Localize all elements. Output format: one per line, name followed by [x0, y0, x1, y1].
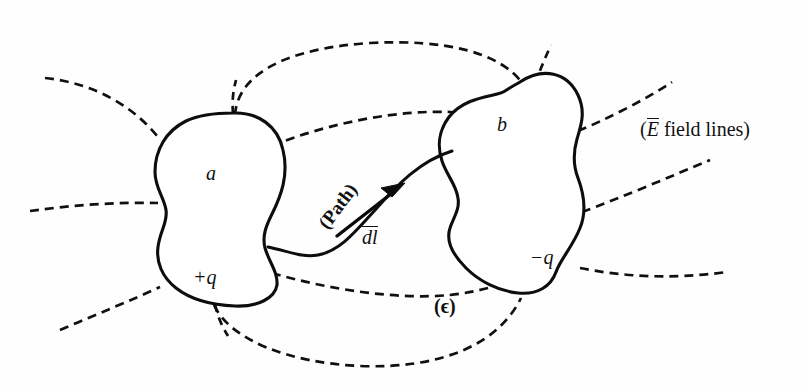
field-line-left-middle — [30, 203, 158, 211]
field-line-stub-bottom-left — [215, 304, 228, 336]
field-line-right-lower — [580, 268, 727, 276]
conductor-b-outline — [439, 73, 584, 293]
permittivity-label: (ϵ) — [434, 296, 456, 316]
field-line-left-upper — [45, 78, 158, 137]
conductor-a-outline — [155, 113, 285, 306]
field-lines-caption: (E field lines) — [640, 118, 750, 140]
conductor-b-charge-label: −q — [530, 247, 554, 267]
field-line-right-middle — [582, 160, 710, 212]
field-lines-caption-close-paren: ) — [743, 118, 750, 140]
field-line-bottom-arc-outer — [214, 298, 521, 366]
field-lines-caption-symbol: E — [647, 118, 659, 140]
field-lines-caption-text: field lines — [659, 118, 743, 140]
field-line-left-lower — [60, 287, 160, 330]
figure-canvas — [0, 0, 806, 388]
conductor-a-charge-label: +q — [193, 267, 217, 287]
figure-root: a +q b −q (E field lines) (ϵ) (Path) dl — [0, 0, 806, 388]
dl-label: dl — [362, 226, 378, 248]
field-lines-caption-open-paren: ( — [640, 118, 647, 140]
conductor-a-label: a — [206, 163, 216, 183]
integration-path — [268, 151, 452, 256]
dl-label-symbol: dl — [362, 226, 378, 248]
conductor-b-label: b — [497, 114, 507, 134]
